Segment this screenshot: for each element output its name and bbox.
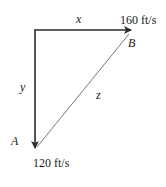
- speed-x-label: 160 ft/s: [120, 14, 156, 26]
- z-distance-line: [37, 34, 129, 147]
- point-b-label: B: [128, 37, 135, 49]
- x-label: x: [76, 13, 81, 25]
- z-label: z: [96, 89, 101, 101]
- y-label: y: [20, 81, 25, 93]
- point-a-label: A: [11, 135, 18, 147]
- speed-y-label: 120 ft/s: [33, 157, 69, 169]
- velocity-vector-diagram: x 160 ft/s B y z A 120 ft/s: [0, 0, 166, 187]
